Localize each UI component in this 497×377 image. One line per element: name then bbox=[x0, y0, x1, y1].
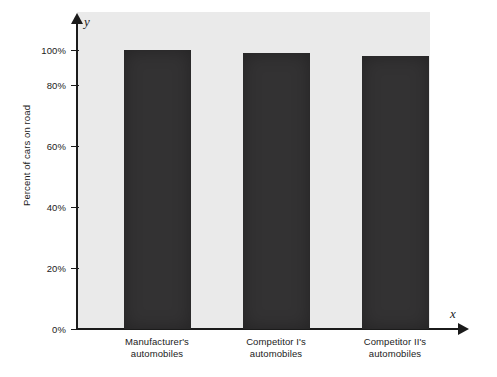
y-tick-label-40: 40% bbox=[6, 202, 66, 213]
bar-manufacturers-automobiles bbox=[124, 50, 191, 329]
bar-competitor-1-automobiles bbox=[243, 53, 310, 329]
y-tick-100 bbox=[71, 50, 79, 51]
y-tick-60 bbox=[71, 146, 79, 147]
y-axis-line bbox=[76, 22, 78, 330]
y-tick-label-60: 60% bbox=[6, 141, 66, 152]
y-tick-label-80: 80% bbox=[6, 80, 66, 91]
x-category-label-2: Competitor II's automobiles bbox=[325, 336, 465, 359]
y-tick-80 bbox=[71, 85, 79, 86]
y-tick-label-0: 0% bbox=[6, 324, 66, 335]
y-tick-label-100: 100% bbox=[6, 45, 66, 56]
x-axis-letter: x bbox=[450, 306, 456, 322]
y-tick-20 bbox=[71, 268, 79, 269]
bar-competitor-2-automobiles bbox=[362, 56, 429, 329]
x-category-label-2-line1: Competitor II's bbox=[325, 336, 465, 348]
bar-chart-figure: y x Percent of cars on road 0% 20% 40% 6… bbox=[0, 0, 497, 377]
x-axis-arrow-icon bbox=[458, 323, 469, 335]
y-axis-letter: y bbox=[84, 14, 90, 30]
y-tick-label-20: 20% bbox=[6, 263, 66, 274]
y-tick-0 bbox=[71, 329, 79, 330]
y-axis-arrow-icon bbox=[71, 13, 83, 24]
y-tick-40 bbox=[71, 207, 79, 208]
x-category-label-2-line2: automobiles bbox=[325, 348, 465, 360]
